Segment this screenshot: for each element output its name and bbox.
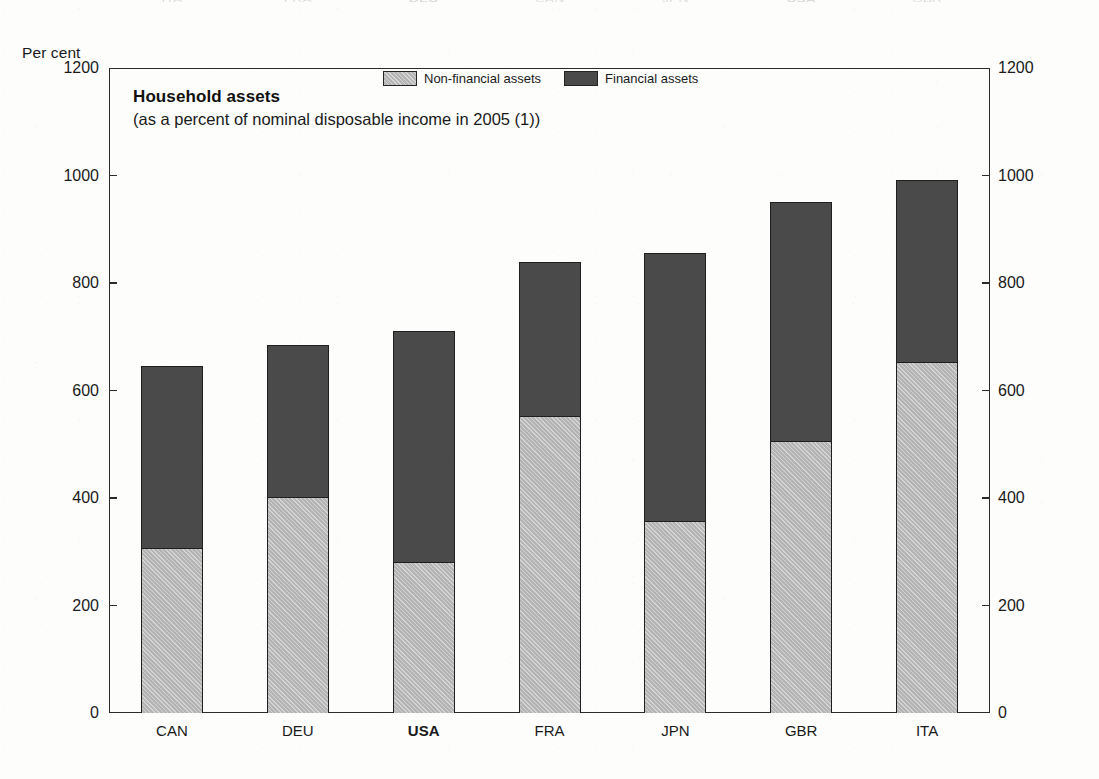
bleed-label-6: GBR <box>897 0 957 4</box>
bar-segment-financial-deu <box>267 345 329 498</box>
y-tick-label-left-600: 600 <box>21 383 99 399</box>
bar-segment-financial-gbr <box>770 202 832 441</box>
bar-segment-non-financial-deu <box>267 498 329 713</box>
y-tick-label-right-800: 800 <box>998 275 1076 291</box>
y-tick-label-right-400: 400 <box>998 490 1076 506</box>
x-axis-label-can: CAN <box>112 722 232 739</box>
bar-fra <box>519 262 581 714</box>
y-tick-label-right-200: 200 <box>998 598 1076 614</box>
bleed-label-1: FRA <box>268 0 328 4</box>
y-tick-label-left-1000: 1000 <box>21 168 99 184</box>
x-axis-label-ita: ITA <box>867 722 987 739</box>
y-tick-label-left-200: 200 <box>21 598 99 614</box>
bar-segment-non-financial-jpn <box>644 522 706 713</box>
y-tick-label-left-0: 0 <box>21 705 99 721</box>
y-tick-label-left-1200: 1200 <box>21 60 99 76</box>
bar-segment-financial-fra <box>519 262 581 418</box>
bar-usa <box>393 331 455 713</box>
bar-segment-financial-jpn <box>644 253 706 522</box>
bar-segment-non-financial-fra <box>519 417 581 713</box>
bar-segment-non-financial-gbr <box>770 442 832 713</box>
x-axis-label-usa: USA <box>364 722 484 739</box>
y-tick-label-right-0: 0 <box>998 705 1076 721</box>
bleed-label-2: DEU <box>394 0 454 4</box>
page-bleed-through: ITAFRADEUCANJPNUSAGBR <box>0 0 1099 12</box>
y-tick-label-right-1000: 1000 <box>998 168 1076 184</box>
bar-segment-non-financial-usa <box>393 563 455 714</box>
x-axis-label-deu: DEU <box>238 722 358 739</box>
bleed-label-5: USA <box>771 0 831 4</box>
bar-can <box>141 366 203 713</box>
bleed-label-0: ITA <box>142 0 202 4</box>
y-tick-label-right-600: 600 <box>998 383 1076 399</box>
chart-page: ITAFRADEUCANJPNUSAGBR Per cent 002002004… <box>0 0 1099 779</box>
bleed-label-3: CAN <box>520 0 580 4</box>
bar-deu <box>267 345 329 713</box>
y-tick-label-left-400: 400 <box>21 490 99 506</box>
bar-segment-financial-usa <box>393 331 455 562</box>
x-axis-label-jpn: JPN <box>615 722 735 739</box>
bar-ita <box>896 180 958 713</box>
x-axis-label-gbr: GBR <box>741 722 861 739</box>
bar-jpn <box>644 253 706 713</box>
bar-segment-financial-ita <box>896 180 958 363</box>
bar-segment-financial-can <box>141 366 203 549</box>
y-tick-label-left-800: 800 <box>21 275 99 291</box>
bleed-label-4: JPN <box>645 0 705 4</box>
bar-series-container <box>109 68 990 713</box>
bar-segment-non-financial-ita <box>896 363 958 713</box>
x-axis-label-fra: FRA <box>490 722 610 739</box>
y-tick-label-right-1200: 1200 <box>998 60 1076 76</box>
bar-segment-non-financial-can <box>141 549 203 713</box>
bar-gbr <box>770 202 832 713</box>
